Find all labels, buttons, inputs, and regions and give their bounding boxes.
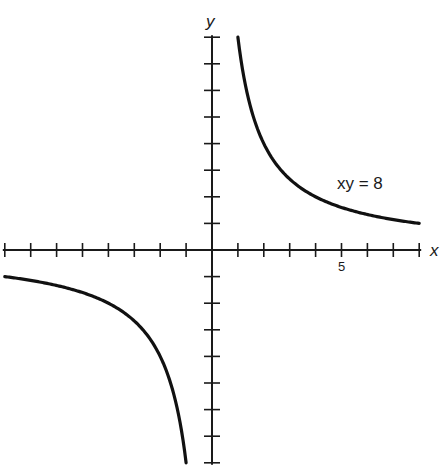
equation-annotation: xy = 8 xyxy=(337,174,383,193)
x-axis-label: x xyxy=(429,241,439,260)
axes xyxy=(3,35,421,465)
y-axis-label: y xyxy=(205,12,216,31)
hyperbola-branch-q3 xyxy=(5,277,186,463)
hyperbola-branch-q1 xyxy=(238,37,419,223)
x-tick-label-5: 5 xyxy=(338,259,345,274)
hyperbola-plot: x y 5 xy = 8 xyxy=(0,0,446,474)
